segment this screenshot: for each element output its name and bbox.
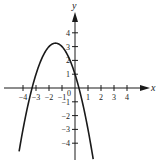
x-axis-label: x (150, 82, 156, 93)
x-tick-label: 4 (125, 93, 129, 102)
y-tick-label: 1 (66, 70, 70, 79)
y-tick-label: −1 (61, 98, 70, 107)
x-tick-label: 2 (99, 93, 103, 102)
x-tick-label: −3 (32, 93, 41, 102)
parabola-chart: x y 0 −4−3−2−11234 4321−1−2−3−4 (0, 0, 157, 166)
y-tick-label: 3 (66, 43, 70, 52)
y-axis-arrow-icon (72, 12, 78, 22)
x-tick-label: −4 (19, 93, 28, 102)
x-tick-label: −2 (45, 93, 54, 102)
x-tick-label: 1 (86, 93, 90, 102)
x-axis-arrow-icon (140, 85, 150, 91)
y-tick-label: −3 (61, 125, 70, 134)
y-tick-label: −4 (61, 139, 70, 148)
origin-label: 0 (67, 89, 71, 98)
y-tick-label: 4 (66, 29, 70, 38)
y-axis-label: y (71, 0, 77, 11)
x-tick-label: 3 (112, 93, 116, 102)
axes: x y 0 (4, 0, 156, 160)
y-tick-label: −2 (61, 112, 70, 121)
parabola-curve (19, 43, 93, 159)
